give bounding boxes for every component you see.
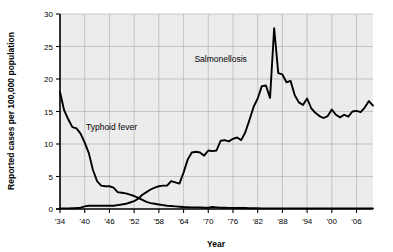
x-tick-label: '76 [228,217,239,226]
x-tick-label: '82 [252,217,263,226]
x-tick-label: '40 [79,217,90,226]
y-tick-label: 15 [44,108,53,117]
x-axis-title: Year [207,239,226,249]
y-tick-label: 5 [49,173,54,182]
y-tick-label: 25 [44,43,53,52]
y-tick-label: 0 [49,205,54,214]
x-tick-label: '46 [104,217,115,226]
y-tick-label: 20 [44,75,53,84]
x-tick-label: '70 [203,217,214,226]
x-tick-label: '06 [351,217,362,226]
annotation-typhoid-fever: Typhoid fever [86,122,137,132]
y-axis-title: Reported cases per 100,000 population [6,32,16,190]
y-tick-label: 10 [44,140,53,149]
x-tick-label: '64 [178,217,189,226]
x-tick-label: '88 [277,217,288,226]
annotation-salmonellosis: Salmonellosis [194,54,246,64]
x-tick-label: '58 [154,217,165,226]
x-tick-label: '52 [129,217,140,226]
x-tick-label: '34 [55,217,66,226]
x-tick-label: '94 [302,217,313,226]
line-chart: '34'40'46'52'58'64'70'76'82'88'94'00'06 … [0,0,393,252]
chart-figure: '34'40'46'52'58'64'70'76'82'88'94'00'06 … [0,0,393,252]
y-tick-label: 30 [44,10,53,19]
x-tick-label: '00 [327,217,338,226]
